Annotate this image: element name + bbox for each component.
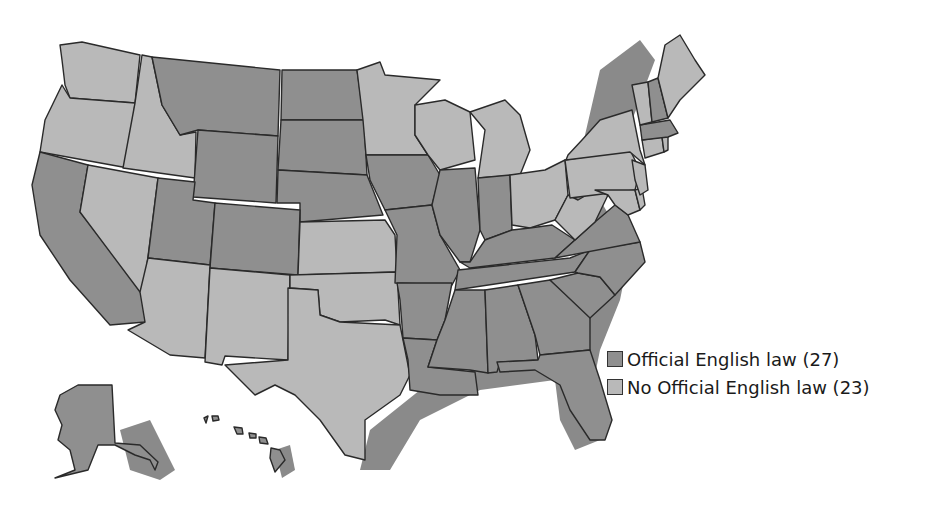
swatch-no-official	[607, 379, 623, 395]
state-kansas	[298, 220, 397, 275]
state-florida	[497, 350, 612, 440]
legend-item-no-official: No Official English law (23)	[607, 373, 870, 401]
legend: Official English law (27) No Official En…	[607, 345, 870, 401]
state-new-mexico	[205, 268, 290, 365]
state-maine	[658, 35, 705, 118]
state-michigan	[470, 100, 530, 178]
state-colorado	[210, 203, 300, 275]
us-states-map	[0, 0, 945, 512]
state-north-dakota	[281, 70, 364, 120]
legend-label-no-official: No Official English law (23)	[627, 377, 870, 398]
state-wyoming	[193, 130, 278, 203]
legend-item-official: Official English law (27)	[607, 345, 870, 373]
state-washington	[60, 42, 140, 103]
legend-label-official: Official English law (27)	[627, 349, 839, 370]
state-south-dakota	[278, 120, 367, 175]
swatch-official	[607, 351, 623, 367]
state-hawaii	[204, 416, 285, 472]
state-indiana	[478, 175, 512, 240]
